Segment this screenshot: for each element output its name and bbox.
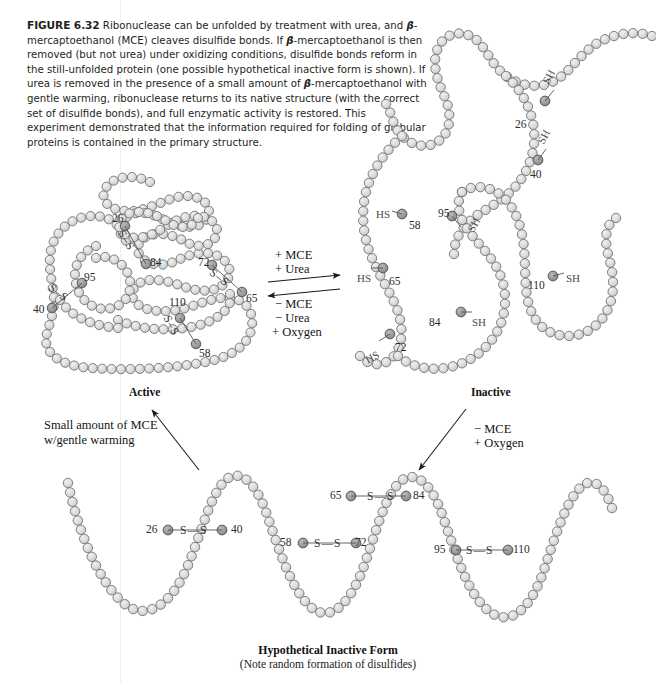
inactive-bead <box>407 138 416 147</box>
hypo-bead <box>187 551 197 561</box>
active-bead <box>103 199 112 208</box>
active-bead <box>154 363 163 372</box>
hypo-bead <box>362 553 372 563</box>
active-bead <box>138 233 147 242</box>
active-bead <box>145 177 154 186</box>
hypo-bead <box>65 488 75 498</box>
hypo-bead <box>290 580 300 590</box>
hypo-residue-95: 95 <box>434 543 446 555</box>
hypo-bead <box>564 500 574 510</box>
active-bead <box>137 174 146 183</box>
inactive-bead <box>359 206 368 215</box>
active-bead <box>189 301 198 310</box>
active-bead <box>101 252 110 261</box>
active-residue-95: 95 <box>84 271 96 283</box>
forward-condition-urea: + Urea <box>275 262 309 277</box>
inactive-bead <box>410 361 419 370</box>
hypo-bead <box>368 535 378 545</box>
active-bead <box>125 286 134 295</box>
active-bead <box>88 364 97 373</box>
active-bead <box>95 320 104 329</box>
active-bead <box>154 276 163 285</box>
active-bead <box>194 241 203 250</box>
inactive-sh-110: SH <box>566 272 580 284</box>
inactive-bead <box>521 268 530 277</box>
inactive-bead <box>497 318 506 327</box>
hypo-bead <box>359 562 369 572</box>
hypo-bead <box>556 518 566 528</box>
inactive-bead <box>520 249 529 258</box>
inactive-bead <box>499 280 508 289</box>
inactive-bead <box>395 315 404 324</box>
inactive-bead <box>507 203 516 212</box>
inactive-bead <box>608 287 617 296</box>
hypo-bead <box>549 536 559 546</box>
inactive-bead <box>598 314 607 323</box>
active-bead <box>165 195 174 204</box>
hypo-bead <box>183 560 193 570</box>
inactive-bead <box>401 357 410 366</box>
peptide-chains <box>42 28 656 622</box>
inactive-bead <box>526 111 535 120</box>
hypo-bead <box>258 499 268 509</box>
hypo-bead <box>378 507 388 517</box>
inactive-bead <box>602 229 611 238</box>
inactive-bead <box>440 92 449 101</box>
inactive-bead <box>454 29 463 38</box>
inactive-bead <box>574 330 583 339</box>
hypo-bead <box>224 473 234 483</box>
inactive-bead <box>647 31 656 40</box>
inactive-bead <box>367 254 376 263</box>
hypo-bead <box>68 497 78 507</box>
active-bead <box>169 220 178 229</box>
active-bead <box>216 293 225 302</box>
inactive-bead <box>397 324 406 333</box>
inactive-bead <box>523 102 532 111</box>
active-bead <box>173 362 182 371</box>
hypo-bead <box>281 563 291 573</box>
inactive-bead <box>603 305 612 314</box>
inactive-bead <box>530 81 539 90</box>
inactive-bead <box>389 117 398 126</box>
hypo-bead <box>540 564 550 574</box>
equilibrium-arrows <box>268 275 340 296</box>
inactive-bead <box>484 51 493 60</box>
hypo-bead <box>371 525 381 535</box>
inactive-bead <box>546 328 555 337</box>
inactive-bead <box>565 331 574 340</box>
active-bead <box>107 364 116 373</box>
hypo-bead <box>437 508 447 518</box>
active-bead <box>242 336 251 345</box>
inactive-bead <box>436 83 445 92</box>
hypo-bead <box>537 573 547 583</box>
active-bead <box>178 222 187 231</box>
active-bead <box>42 339 51 348</box>
figure-page: FIGURE 6.32 Ribonuclease can be unfolded… <box>0 0 656 683</box>
active-bead <box>86 318 95 327</box>
inactive-bead <box>500 289 509 298</box>
inactive-bead <box>429 364 438 373</box>
active-bead <box>52 354 61 363</box>
inactive-bead <box>393 306 402 315</box>
hypo-bead <box>179 569 189 579</box>
inactive-residue-26: 26 <box>515 118 527 130</box>
active-bead <box>131 321 140 330</box>
inactive-bead <box>364 245 373 254</box>
inactive-bead <box>603 249 612 258</box>
hypo-bead <box>79 534 89 544</box>
active-residue-110: 110 <box>169 296 186 308</box>
active-bead <box>95 212 104 221</box>
hypo-bead <box>325 608 335 618</box>
hypo-bead <box>147 604 157 614</box>
hypo-bead <box>203 506 213 516</box>
inactive-bead <box>611 213 620 222</box>
inactive-bead <box>487 335 496 344</box>
molecule-diagrams <box>0 0 656 683</box>
active-bead <box>168 231 177 240</box>
active-bead <box>118 173 127 182</box>
active-bead <box>193 213 202 222</box>
active-bead <box>248 319 257 328</box>
active-bead <box>127 173 136 182</box>
inactive-bead <box>385 288 394 297</box>
active-bead <box>182 283 191 292</box>
